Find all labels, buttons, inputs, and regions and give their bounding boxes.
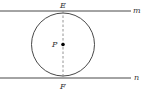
label-f: F: [59, 82, 66, 91]
label-n: n: [134, 73, 139, 82]
label-e: E: [59, 1, 66, 10]
geometry-diagram: E F P m n: [0, 0, 147, 96]
label-p: P: [51, 40, 58, 49]
label-m: m: [133, 6, 141, 15]
center-point-p: [61, 43, 65, 47]
